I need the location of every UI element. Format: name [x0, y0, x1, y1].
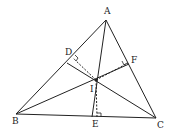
label-i: I: [90, 85, 94, 94]
side-bc: [16, 114, 156, 118]
perp-if: [96, 63, 128, 80]
label-f: F: [131, 56, 137, 65]
label-e: E: [92, 120, 99, 129]
diagram: A B C D E F I: [0, 0, 172, 135]
bisector-a: [92, 20, 106, 117]
side-ca: [106, 20, 156, 118]
label-d: D: [65, 48, 72, 57]
triangle-figure: [0, 0, 172, 135]
right-angle-f: [122, 61, 127, 65]
point-i: [95, 79, 98, 82]
label-a: A: [104, 7, 111, 16]
label-b: B: [12, 117, 19, 126]
label-c: C: [157, 121, 164, 130]
side-ab: [16, 20, 106, 114]
